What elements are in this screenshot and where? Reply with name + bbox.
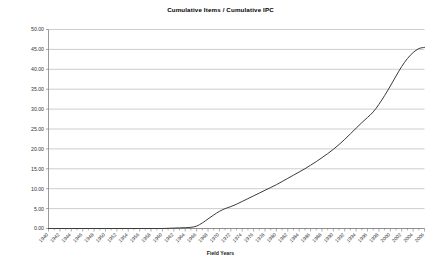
x-tick-label: 1982 (277, 232, 288, 243)
x-axis-title: Field Years (0, 250, 441, 256)
data-series-line (49, 47, 425, 228)
x-tick-label: 2004 (403, 232, 414, 243)
x-tick-label: 2000 (380, 232, 391, 243)
x-tick-label: 2002 (391, 232, 402, 243)
x-tick-label: 1976 (243, 232, 254, 243)
x-tick-label: 1948 (84, 232, 95, 243)
x-tick-label: 1946 (72, 232, 83, 243)
x-tick-label: 1944 (61, 232, 72, 243)
y-tick-label: 10.00 (31, 186, 44, 192)
x-tick-label: 1990 (323, 232, 334, 243)
y-tick-label: 5.00 (34, 206, 44, 212)
y-tick-label: 45.00 (31, 46, 44, 52)
y-tick-label: 25.00 (31, 126, 44, 132)
x-tick-label: 1954 (118, 232, 129, 243)
y-tick-label: 0.00 (34, 225, 44, 231)
x-tick-label: 1980 (266, 232, 277, 243)
x-tick-label: 1960 (152, 232, 163, 243)
grid-lines (49, 30, 425, 229)
y-tick-label: 35.00 (31, 86, 44, 92)
x-tick-label: 1996 (357, 232, 368, 243)
x-tick-label: 1986 (300, 232, 311, 243)
x-tick-label: 1958 (141, 232, 152, 243)
x-tick-label: 1994 (346, 232, 357, 243)
x-tick-label: 1968 (197, 232, 208, 243)
x-tick-label: 1970 (209, 232, 220, 243)
x-tick-label: 1972 (220, 232, 231, 243)
x-tick-label: 1942 (49, 232, 60, 243)
y-tick-label: 15.00 (31, 166, 44, 172)
x-tick-label: 1978 (254, 232, 265, 243)
chart-plot-area: 0.005.0010.0015.0020.0025.0030.0035.0040… (0, 0, 441, 270)
y-tick-label: 50.00 (31, 26, 44, 32)
x-tick-label: 1974 (232, 232, 243, 243)
x-tick-label: 1956 (129, 232, 140, 243)
x-axis-ticks: 1940194219441946194819501952195419561958… (38, 229, 425, 244)
y-axis-ticks: 0.005.0010.0015.0020.0025.0030.0035.0040… (31, 26, 48, 231)
x-tick-label: 1952 (106, 232, 117, 243)
x-tick-label: 1984 (289, 232, 300, 243)
y-tick-label: 20.00 (31, 146, 44, 152)
x-tick-label: 1966 (186, 232, 197, 243)
x-tick-label: 1998 (368, 232, 379, 243)
series-line-cumulative-items (49, 47, 425, 228)
x-tick-label: 1950 (95, 232, 106, 243)
x-tick-label: 1988 (311, 232, 322, 243)
y-tick-label: 30.00 (31, 106, 44, 112)
x-tick-label: 1940 (38, 232, 49, 243)
chart-container: Cumulative Items / Cumulative IPC 0.005.… (0, 0, 441, 270)
x-tick-label: 1992 (334, 232, 345, 243)
x-tick-label: 1964 (175, 232, 186, 243)
y-tick-label: 40.00 (31, 66, 44, 72)
x-tick-label: 2006 (414, 232, 425, 243)
x-tick-label: 1962 (163, 232, 174, 243)
